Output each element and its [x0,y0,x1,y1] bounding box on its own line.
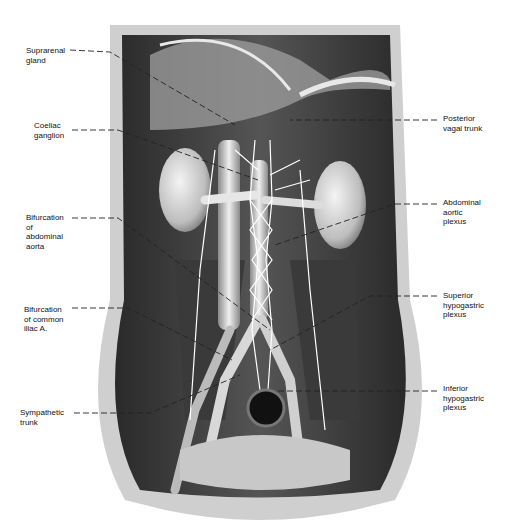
label-abdominal-aortic-plexus: Abdominal aortic plexus [443,198,481,227]
label-coeliac-ganglion: Coeliac ganglion [34,121,64,140]
bladder [180,435,350,490]
label-suprarenal-gland: Suprarenal gland [26,46,65,65]
label-posterior-vagal-trunk: Posterior vagal trunk [443,114,482,133]
label-superior-hypogastric-plexus: Superior hypogastric plexus [443,291,484,320]
label-bifurcation-common-iliac: Bifurcation of common iliac A. [24,305,64,334]
anatomical-illustration [0,0,511,527]
inferior-vena-cava [218,140,240,330]
label-inferior-hypogastric-plexus: Inferior hypogastric plexus [443,384,484,413]
label-sympathetic-trunk: Sympathetic trunk [20,408,64,427]
label-bifurcation-abdominal-aorta: Bifurcation of abdominal aorta [26,213,64,251]
rectum [248,390,284,426]
